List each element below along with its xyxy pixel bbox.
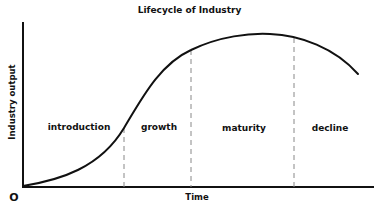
origin-label: O	[9, 191, 18, 204]
y-axis-label: Industry output	[7, 64, 17, 139]
lifecycle-curve	[23, 34, 358, 186]
phase-label-decline: decline	[312, 123, 349, 133]
diagram-graphics	[0, 0, 379, 212]
diagram-title: Lifecycle of Industry	[0, 5, 379, 15]
x-axis-label: Time	[185, 192, 208, 202]
phase-label-introduction: introduction	[48, 122, 111, 132]
phase-label-growth: growth	[141, 122, 177, 132]
phase-label-maturity: maturity	[222, 123, 266, 133]
lifecycle-diagram: Lifecycle of Industry Industry output Ti…	[0, 0, 379, 212]
